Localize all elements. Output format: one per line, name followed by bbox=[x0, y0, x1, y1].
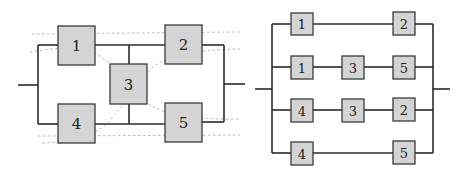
right-parallel-diagram: 1 2 1 3 5 4 bbox=[255, 12, 450, 165]
component-label: 2 bbox=[179, 36, 189, 54]
svg-text:3: 3 bbox=[349, 61, 357, 76]
component-5: 5 bbox=[393, 56, 415, 79]
svg-text:2: 2 bbox=[400, 103, 408, 118]
component-4: 4 bbox=[58, 104, 95, 143]
component-label: 5 bbox=[179, 114, 189, 132]
svg-text:4: 4 bbox=[298, 104, 306, 119]
component-label: 1 bbox=[72, 37, 82, 55]
path-row-2: 1 3 5 bbox=[291, 56, 415, 79]
right-wires bbox=[255, 24, 450, 153]
left-bridge-diagram: 1 2 3 4 5 bbox=[18, 25, 245, 143]
path-row-3: 4 3 2 bbox=[291, 98, 415, 122]
svg-text:2: 2 bbox=[400, 17, 408, 32]
svg-text:3: 3 bbox=[349, 104, 357, 119]
component-3: 3 bbox=[342, 56, 364, 79]
reliability-diagrams: 1 2 3 4 5 bbox=[0, 0, 469, 174]
component-3: 3 bbox=[110, 64, 147, 104]
component-label: 3 bbox=[124, 76, 134, 94]
svg-text:1: 1 bbox=[298, 17, 306, 32]
component-4: 4 bbox=[291, 142, 313, 165]
component-label: 4 bbox=[72, 115, 82, 133]
component-2: 2 bbox=[393, 12, 415, 35]
component-3: 3 bbox=[342, 99, 364, 122]
component-5: 5 bbox=[165, 103, 202, 142]
component-2: 2 bbox=[165, 25, 202, 64]
svg-text:4: 4 bbox=[298, 147, 306, 162]
component-2: 2 bbox=[393, 98, 415, 121]
component-5: 5 bbox=[393, 141, 415, 164]
svg-text:5: 5 bbox=[400, 146, 408, 161]
component-1: 1 bbox=[58, 26, 95, 65]
component-1: 1 bbox=[291, 56, 313, 79]
component-4: 4 bbox=[291, 99, 313, 122]
component-1: 1 bbox=[291, 13, 313, 35]
svg-text:1: 1 bbox=[298, 61, 306, 76]
svg-text:5: 5 bbox=[400, 61, 408, 76]
